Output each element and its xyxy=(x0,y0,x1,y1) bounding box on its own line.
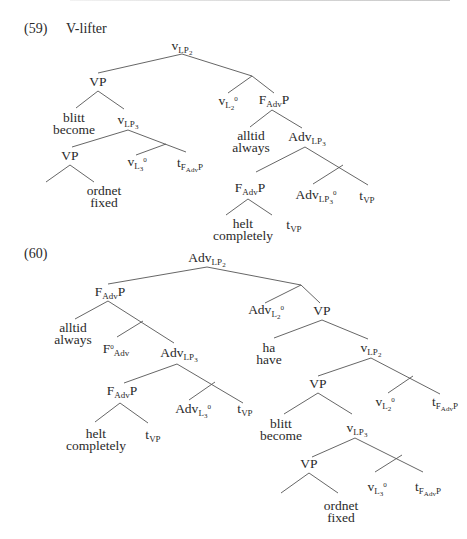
node-vl3-head: vL30 xyxy=(127,156,146,169)
leaf-blitt-become: blittbecome xyxy=(53,112,95,136)
leaf-ordnet-fixed: ordnetfixed xyxy=(324,500,359,524)
node-trace-vp: tVP xyxy=(286,219,301,231)
node-vlp2: vLP2 xyxy=(361,342,382,355)
node-fadvp: FAdvP xyxy=(107,385,138,397)
node-advl2-head: AdvL20 xyxy=(248,304,284,317)
node-vlp3: vLP3 xyxy=(347,422,368,435)
node-fadv-head: F0Adv xyxy=(103,343,130,355)
node-advlp3: AdvLP3 xyxy=(288,131,325,144)
node-trace-vp: tVP xyxy=(359,190,374,202)
node-vlp2-root: vLP2 xyxy=(172,40,193,53)
node-advl3-head: AdvL30 xyxy=(175,403,211,416)
node-vp: VP xyxy=(300,458,317,470)
node-trace-vp: tVP xyxy=(145,429,160,441)
node-fadvp: FAdvP xyxy=(235,182,266,194)
node-advlp3: AdvLP3 xyxy=(160,347,197,360)
example-59-number: (59) xyxy=(24,21,47,37)
node-advlp3-head: AdvLP30 xyxy=(296,189,337,202)
node-vp: VP xyxy=(309,378,326,390)
example-60-number: (60) xyxy=(24,246,47,262)
node-vlp3: vLP3 xyxy=(118,114,139,127)
leaf-blitt-become: blittbecome xyxy=(260,418,302,442)
leaf-alltid-always: alltidalways xyxy=(54,322,92,346)
node-trace-fadvp: tFAdvP xyxy=(432,396,458,409)
leaf-helt-completely: heltcompletely xyxy=(213,218,273,242)
leaf-ha-have: hahave xyxy=(256,342,281,366)
node-vl2-head: vL20 xyxy=(375,396,394,409)
node-vp: VP xyxy=(313,305,330,317)
node-fadvp: FAdvP xyxy=(259,94,290,106)
node-vp: VP xyxy=(89,76,106,88)
node-trace-vp: tVP xyxy=(237,403,252,415)
leaf-ordnet-fixed: ordnetfixed xyxy=(87,185,122,209)
leaf-helt-completely: heltcompletely xyxy=(66,428,126,452)
node-vp: VP xyxy=(61,150,78,162)
node-trace-fadvp: tFAdvP xyxy=(177,157,203,170)
node-advlp2-root: AdvLP2 xyxy=(188,252,225,265)
node-vl2-head: vL20 xyxy=(218,95,237,108)
example-59-title: V-lifter xyxy=(66,21,107,37)
leaf-alltid-always: alltidalways xyxy=(232,130,270,154)
node-fadvp: FAdvP xyxy=(95,286,126,298)
node-trace-fadvp: tFAdvP xyxy=(415,481,441,494)
node-vl3-head: vL30 xyxy=(367,481,386,494)
tree-branches xyxy=(0,0,467,539)
